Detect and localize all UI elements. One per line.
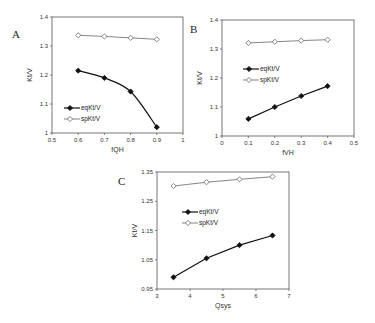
- x-tick-label: 3: [155, 293, 159, 299]
- legend: eqKt/VspKt/V: [182, 208, 219, 227]
- y-tick-label: 1.4: [210, 17, 219, 23]
- data-point-marker: [102, 34, 107, 39]
- series-spktv: [246, 37, 330, 45]
- x-tick-label: 5: [221, 293, 225, 299]
- x-tick-label: 0.5: [350, 140, 359, 146]
- series-spktv: [171, 174, 275, 189]
- series-spktv: [76, 33, 160, 42]
- legend-marker-icon: [246, 77, 251, 82]
- y-tick-label: 1.3: [210, 46, 219, 52]
- plot-frame: [222, 20, 354, 136]
- legend: eqKt/VspKt/V: [243, 65, 280, 84]
- series-line: [78, 35, 157, 39]
- y-tick-label: 1.4: [40, 14, 49, 20]
- panel-label: A: [12, 28, 20, 40]
- x-tick-label: 0.2: [271, 140, 280, 146]
- y-tick-label: 1.1: [40, 101, 49, 107]
- data-point-marker: [128, 35, 133, 40]
- x-tick-label: 0: [220, 140, 224, 146]
- data-point-marker: [102, 75, 107, 80]
- legend-label: spKt/V: [81, 115, 101, 123]
- legend-label: eqKt/V: [260, 65, 280, 73]
- data-point-marker: [270, 174, 275, 179]
- chart-panel-b: 11.11.21.31.400.10.20.30.40.5fVHKt/VBeqK…: [190, 17, 359, 156]
- x-tick-label: 0.9: [153, 137, 162, 143]
- data-point-marker: [76, 68, 81, 73]
- legend-label: spKt/V: [199, 219, 219, 227]
- y-tick-label: 1.25: [141, 198, 153, 204]
- x-tick-label: 0.6: [74, 137, 83, 143]
- chart-panel-a: 11.11.21.31.40.50.60.70.80.91fQHKt/VAeqK…: [12, 14, 185, 154]
- legend-marker-icon: [67, 105, 72, 110]
- data-point-marker: [154, 37, 159, 42]
- y-tick-label: 0.95: [141, 286, 153, 292]
- series-eqktv: [246, 84, 330, 122]
- data-point-marker: [204, 256, 209, 261]
- data-point-marker: [237, 243, 242, 248]
- y-tick-label: 1: [215, 133, 219, 139]
- x-axis-label: fVH: [282, 149, 294, 156]
- data-point-marker: [246, 40, 251, 45]
- x-axis-label: fQH: [111, 146, 123, 154]
- y-axis-label: Kt/V: [196, 71, 203, 85]
- legend-marker-icon: [246, 66, 251, 71]
- x-tick-label: 0.8: [126, 137, 135, 143]
- series-eqktv: [171, 233, 275, 280]
- legend: eqKt/VspKt/V: [64, 104, 101, 123]
- series-line: [174, 177, 273, 186]
- y-tick-label: 1.2: [40, 72, 49, 78]
- plot-frame: [157, 172, 289, 289]
- series-line: [248, 86, 327, 119]
- data-point-marker: [325, 37, 330, 42]
- legend-label: eqKt/V: [199, 208, 219, 216]
- x-tick-label: 0.4: [323, 140, 332, 146]
- chart-panel-c: 0.951.051.151.251.3534567QsysKt/VCeqKt/V…: [118, 169, 291, 310]
- data-point-marker: [237, 177, 242, 182]
- data-point-marker: [299, 93, 304, 98]
- data-point-marker: [76, 33, 81, 38]
- x-tick-label: 4: [188, 293, 192, 299]
- legend-marker-icon: [185, 209, 190, 214]
- x-tick-label: 0.3: [297, 140, 306, 146]
- x-tick-label: 0.5: [48, 137, 57, 143]
- y-tick-label: 1.2: [210, 75, 219, 81]
- y-tick-label: 1.15: [141, 228, 153, 234]
- data-point-marker: [299, 38, 304, 43]
- series-line: [248, 40, 327, 43]
- data-point-marker: [171, 183, 176, 188]
- y-axis-label: Kt/V: [26, 68, 33, 82]
- panel-label: B: [190, 23, 197, 35]
- legend-marker-icon: [185, 220, 190, 225]
- x-tick-label: 0.1: [244, 140, 253, 146]
- y-tick-label: 1.35: [141, 169, 153, 175]
- y-tick-label: 1.3: [40, 43, 49, 49]
- y-tick-label: 1.1: [210, 104, 219, 110]
- series-line: [174, 235, 273, 277]
- x-tick-label: 7: [287, 293, 291, 299]
- data-point-marker: [204, 180, 209, 185]
- legend-label: spKt/V: [260, 76, 280, 84]
- data-point-marker: [270, 233, 275, 238]
- x-axis-label: Qsys: [215, 302, 231, 310]
- data-point-marker: [325, 84, 330, 89]
- y-tick-label: 1.05: [141, 257, 153, 263]
- legend-marker-icon: [67, 116, 72, 121]
- x-tick-label: 6: [254, 293, 258, 299]
- data-point-marker: [246, 116, 251, 121]
- panel-label: C: [118, 175, 125, 187]
- plot-frame: [52, 17, 183, 133]
- data-point-marker: [272, 39, 277, 44]
- x-tick-label: 1: [181, 137, 185, 143]
- figure: 11.11.21.31.40.50.60.70.80.91fQHKt/VAeqK…: [0, 0, 375, 323]
- y-tick-label: 1: [45, 130, 49, 136]
- data-point-marker: [272, 104, 277, 109]
- legend-label: eqKt/V: [81, 104, 101, 112]
- y-axis-label: Kt/V: [131, 224, 138, 238]
- data-point-marker: [171, 275, 176, 280]
- x-tick-label: 0.7: [100, 137, 109, 143]
